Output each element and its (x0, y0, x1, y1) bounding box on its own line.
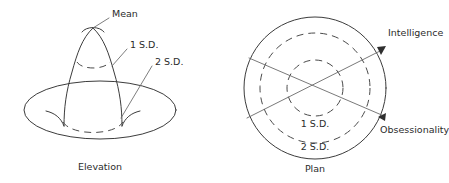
figure-root: Mean 1 S.D. 2 S.D. Elevation Intelligenc… (0, 0, 449, 183)
elevation-panel: Mean 1 S.D. 2 S.D. Elevation (24, 8, 183, 172)
contour-ring-1sd-elevation (77, 62, 110, 68)
bell-curve-right-flank (93, 28, 122, 126)
leader-line-1sd (112, 49, 127, 66)
label-2sd-plan: 2 S.D. (301, 141, 329, 152)
label-2sd-elevation: 2 S.D. (155, 56, 183, 67)
leader-line-mean (93, 18, 109, 28)
contour-circle-outer (244, 17, 386, 159)
statistics-diagram: Mean 1 S.D. 2 S.D. Elevation Intelligenc… (0, 0, 449, 183)
label-axis-intelligence: Intelligence (388, 27, 443, 38)
label-1sd-elevation: 1 S.D. (130, 39, 158, 50)
plan-panel: Intelligence Obsessionality 1 S.D. 2 S.D… (244, 17, 449, 174)
axis-line-obsessionality (249, 58, 384, 116)
leader-line-2sd (121, 66, 152, 118)
caption-elevation: Elevation (78, 161, 122, 172)
skirt-tail-right (122, 111, 140, 126)
contour-circle-1sd-plan (287, 60, 343, 116)
skirt-tail-left (46, 111, 64, 126)
bell-curve-left-flank (64, 28, 93, 126)
arrowhead-intelligence-icon (377, 46, 386, 55)
contour-ring-2sd-elevation (63, 122, 123, 133)
label-mean: Mean (112, 8, 138, 19)
label-1sd-plan: 1 S.D. (301, 118, 329, 129)
base-ellipse (24, 81, 176, 139)
caption-plan: Plan (305, 163, 325, 174)
label-axis-obsessionality: Obsessionality (380, 124, 449, 135)
